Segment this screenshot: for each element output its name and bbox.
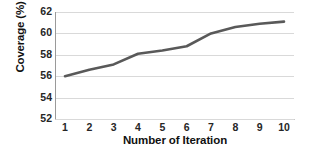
y-tick-label: 60 bbox=[26, 27, 52, 38]
series-coverage bbox=[56, 12, 294, 119]
gridline-52 bbox=[56, 119, 294, 120]
x-axis-title: Number of Iteration bbox=[55, 134, 295, 146]
x-tick-label: 8 bbox=[224, 121, 246, 133]
x-tick-label: 9 bbox=[249, 121, 271, 133]
y-tick-label: 54 bbox=[26, 92, 52, 103]
x-tick-label: 7 bbox=[200, 121, 222, 133]
y-tick-label: 52 bbox=[26, 113, 52, 124]
x-tick-label: 4 bbox=[127, 121, 149, 133]
coverage-line-chart: Coverage (%) 525456586062 12345678910 Nu… bbox=[0, 0, 315, 158]
series-coverage-line bbox=[65, 22, 284, 77]
y-tick-label: 56 bbox=[26, 70, 52, 81]
x-tick-label: 6 bbox=[176, 121, 198, 133]
x-tick-label: 5 bbox=[151, 121, 173, 133]
y-tick-label: 58 bbox=[26, 49, 52, 60]
x-tick-label: 10 bbox=[273, 121, 295, 133]
y-tick-label: 62 bbox=[26, 6, 52, 17]
x-tick-label: 3 bbox=[103, 121, 125, 133]
x-tick-label: 2 bbox=[78, 121, 100, 133]
x-tick-label: 1 bbox=[54, 121, 76, 133]
plot-area bbox=[56, 12, 294, 119]
y-axis-tick-labels: 525456586062 bbox=[22, 0, 52, 158]
